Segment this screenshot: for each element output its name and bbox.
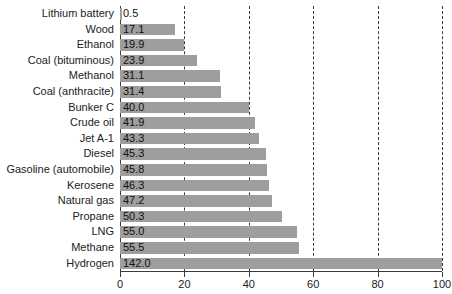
category-label: Hydrogen <box>66 256 114 272</box>
bar-row[interactable]: 45.8 <box>120 162 442 178</box>
category-label: Coal (anthracite) <box>33 84 114 100</box>
bar-value-label: 41.9 <box>123 115 144 131</box>
category-label-row: Bunker C <box>0 100 117 116</box>
category-label-row: Natural gas <box>0 193 117 209</box>
bar-value-label: 43.3 <box>123 131 144 147</box>
category-label: Jet A-1 <box>80 131 114 147</box>
gridline-100 <box>442 6 443 271</box>
x-tick-label: 100 <box>433 278 451 290</box>
bar-row[interactable]: 47.2 <box>120 193 442 209</box>
bar-value-label: 45.8 <box>123 162 144 178</box>
category-label-row: Wood <box>0 22 117 38</box>
category-label-row: Hydrogen <box>0 256 117 272</box>
x-tick-label: 80 <box>371 278 383 290</box>
category-label-row: Coal (bituminous) <box>0 53 117 69</box>
bar-row[interactable]: 45.3 <box>120 146 442 162</box>
bar-value-label: 31.1 <box>123 68 144 84</box>
bar-row[interactable]: 0.5 <box>120 6 442 22</box>
x-tick-0 <box>120 272 121 277</box>
category-label: Diesel <box>83 146 114 162</box>
x-tick-80 <box>378 272 379 277</box>
bar-value-label: 23.9 <box>123 53 144 69</box>
bar-row[interactable]: 41.9 <box>120 115 442 131</box>
category-label: LNG <box>91 224 114 240</box>
category-label-row: Crude oil <box>0 115 117 131</box>
category-label: Propane <box>72 209 114 225</box>
bar-row[interactable]: 43.3 <box>120 131 442 147</box>
bar[interactable] <box>120 8 122 20</box>
category-label: Bunker C <box>68 100 114 116</box>
plot-area: 0.517.119.923.931.131.440.041.943.345.34… <box>120 6 442 271</box>
bar-chart: Lithium batteryWoodEthanolCoal (bitumino… <box>0 0 452 294</box>
x-tick-100 <box>442 272 443 277</box>
bar-row[interactable]: 23.9 <box>120 53 442 69</box>
category-label: Lithium battery <box>42 6 114 22</box>
x-tick-label: 0 <box>117 278 123 290</box>
bar-value-label: 46.3 <box>123 178 144 194</box>
category-label-row: Jet A-1 <box>0 131 117 147</box>
bar[interactable] <box>120 258 442 270</box>
category-label: Wood <box>85 22 114 38</box>
x-axis-ticks: 020406080100 <box>120 272 442 294</box>
category-label-row: LNG <box>0 224 117 240</box>
category-label-row: Gasoline (automobile) <box>0 162 117 178</box>
category-label-row: Ethanol <box>0 37 117 53</box>
bar-value-label: 45.3 <box>123 146 144 162</box>
bar[interactable] <box>120 226 297 238</box>
bar-value-label: 55.5 <box>123 240 144 256</box>
bar-row[interactable]: 31.4 <box>120 84 442 100</box>
bar-row[interactable]: 142.0 <box>120 256 442 272</box>
bar-value-label: 47.2 <box>123 193 144 209</box>
category-label-row: Propane <box>0 209 117 225</box>
category-label: Coal (bituminous) <box>28 53 114 69</box>
category-label-row: Coal (anthracite) <box>0 84 117 100</box>
x-tick-label: 40 <box>243 278 255 290</box>
bar-row[interactable]: 17.1 <box>120 22 442 38</box>
bar-value-label: 50.3 <box>123 209 144 225</box>
x-tick-label: 20 <box>178 278 190 290</box>
category-label-row: Methanol <box>0 68 117 84</box>
category-label: Methane <box>71 240 114 256</box>
bar-value-label: 19.9 <box>123 37 144 53</box>
x-tick-20 <box>184 272 185 277</box>
bar-row[interactable]: 55.0 <box>120 224 442 240</box>
category-label: Natural gas <box>58 193 114 209</box>
category-label: Ethanol <box>77 37 114 53</box>
x-tick-40 <box>249 272 250 277</box>
bar-value-label: 142.0 <box>123 256 151 272</box>
category-label-row: Diesel <box>0 146 117 162</box>
bar-value-label: 31.4 <box>123 84 144 100</box>
category-label-row: Kerosene <box>0 178 117 194</box>
category-label: Crude oil <box>70 115 114 131</box>
bar-row[interactable]: 46.3 <box>120 178 442 194</box>
bar-row[interactable]: 31.1 <box>120 68 442 84</box>
bar-value-label: 55.0 <box>123 224 144 240</box>
bar-value-label: 17.1 <box>123 22 144 38</box>
category-label-row: Lithium battery <box>0 6 117 22</box>
bar-row[interactable]: 55.5 <box>120 240 442 256</box>
category-label: Kerosene <box>67 178 114 194</box>
bar-row[interactable]: 40.0 <box>120 100 442 116</box>
bar-value-label: 40.0 <box>123 100 144 116</box>
x-tick-label: 60 <box>307 278 319 290</box>
bar-row[interactable]: 50.3 <box>120 209 442 225</box>
bar-row[interactable]: 19.9 <box>120 37 442 53</box>
category-label: Gasoline (automobile) <box>6 162 114 178</box>
bar[interactable] <box>120 242 299 254</box>
x-tick-60 <box>313 272 314 277</box>
bar-value-label: 0.5 <box>123 6 138 22</box>
category-label-column: Lithium batteryWoodEthanolCoal (bitumino… <box>0 6 117 271</box>
category-label: Methanol <box>69 68 114 84</box>
category-label-row: Methane <box>0 240 117 256</box>
